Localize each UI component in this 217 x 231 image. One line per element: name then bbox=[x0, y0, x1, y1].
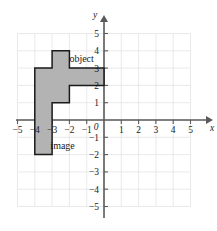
y-tick-label: 5 bbox=[94, 29, 99, 39]
x-tick-label: −4 bbox=[30, 125, 40, 135]
coordinate-figure: −5−4−3−2−11234554321−1−2−3−4−5 objectima… bbox=[0, 0, 217, 231]
y-tick-label: 1 bbox=[94, 98, 99, 108]
y-tick-label: −3 bbox=[89, 167, 99, 177]
y-axis-arrow bbox=[100, 15, 108, 22]
x-tick-label: 3 bbox=[154, 125, 159, 135]
y-axis-label: y bbox=[92, 10, 98, 20]
x-tick-label: 2 bbox=[136, 125, 141, 135]
y-tick-label: −2 bbox=[89, 150, 99, 160]
y-tick-label: −5 bbox=[89, 202, 99, 212]
x-tick-label: 1 bbox=[119, 125, 124, 135]
x-tick-label: −2 bbox=[64, 125, 74, 135]
shape-label-image: image bbox=[50, 140, 75, 151]
y-tick-label: −4 bbox=[89, 185, 99, 195]
shape-label-object: object bbox=[69, 53, 94, 64]
y-tick-label: 3 bbox=[94, 64, 99, 74]
x-tick-label: 4 bbox=[171, 125, 176, 135]
x-axis-label: x bbox=[209, 123, 215, 133]
y-tick-label: −1 bbox=[89, 133, 99, 143]
plot-canvas: −5−4−3−2−11234554321−1−2−3−4−5 objectima… bbox=[0, 0, 217, 231]
x-tick-label: −3 bbox=[47, 125, 57, 135]
x-tick-label: −5 bbox=[12, 125, 22, 135]
y-tick-label: 2 bbox=[94, 81, 99, 91]
y-tick-label: 4 bbox=[94, 46, 99, 56]
x-tick-label: 5 bbox=[188, 125, 193, 135]
origin-label: 0 bbox=[94, 122, 99, 132]
